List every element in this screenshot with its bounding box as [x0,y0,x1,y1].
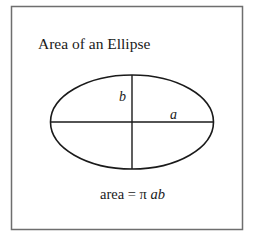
formula-prefix: area = π [100,186,151,202]
label-semi-major-a: a [170,107,177,122]
ellipse-diagram: Area of an Ellipse b a area = π ab [0,0,254,239]
area-formula: area = π ab [100,186,165,202]
diagram-title: Area of an Ellipse [38,35,150,52]
label-semi-minor-b: b [119,89,126,104]
formula-variables: ab [151,186,166,202]
